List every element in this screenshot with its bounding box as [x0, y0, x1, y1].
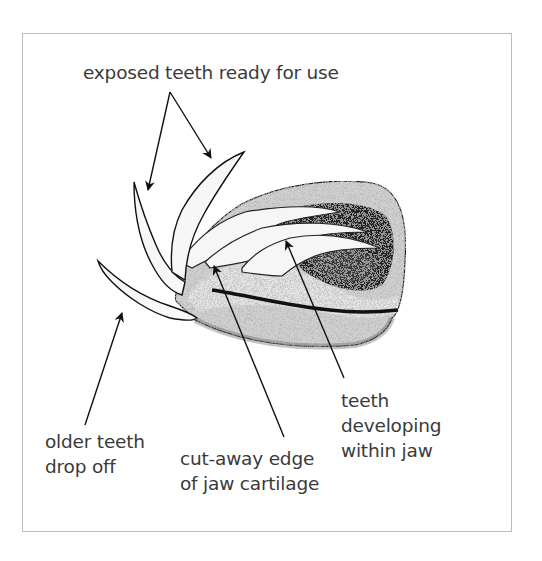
- arrow-older-teeth: [85, 313, 122, 425]
- label-jaw-cartilage: cut-away edge of jaw cartilage: [180, 446, 319, 496]
- label-developing-teeth: teeth developing within jaw: [341, 388, 441, 463]
- arrow-exposed-left: [148, 92, 170, 190]
- label-older-teeth: older teeth drop off: [45, 429, 145, 479]
- label-exposed-teeth: exposed teeth ready for use: [83, 60, 339, 85]
- arrow-exposed-right: [170, 92, 211, 158]
